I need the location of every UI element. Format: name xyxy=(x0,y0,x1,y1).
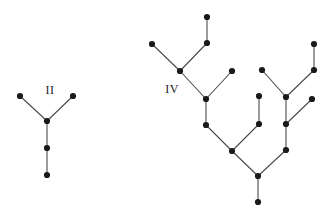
tree-node xyxy=(17,93,23,99)
tree-node xyxy=(283,147,289,153)
tree-node xyxy=(309,96,315,102)
figure-background xyxy=(0,0,332,215)
tree-node xyxy=(283,94,289,100)
tree-node xyxy=(311,67,317,73)
tree-node xyxy=(204,14,210,20)
tree-iv-label: IV xyxy=(165,82,178,96)
tree-node xyxy=(229,148,235,154)
tree-node xyxy=(44,145,50,151)
tree-diagram-figure: IIIV xyxy=(0,0,332,215)
tree-node xyxy=(44,172,50,178)
tree-node xyxy=(256,93,262,99)
tree-node xyxy=(203,96,209,102)
tree-node xyxy=(70,93,76,99)
tree-node xyxy=(149,41,155,47)
tree-node xyxy=(204,40,210,46)
tree-node xyxy=(229,68,235,74)
tree-node xyxy=(311,41,317,47)
tree-node xyxy=(259,67,265,73)
tree-node xyxy=(283,121,289,127)
tree-node xyxy=(177,68,183,74)
tree-node xyxy=(44,118,50,124)
tree-ii-label: II xyxy=(46,83,55,97)
tree-node xyxy=(255,173,261,179)
tree-node xyxy=(203,122,209,128)
tree-node xyxy=(256,121,262,127)
tree-node xyxy=(255,199,261,205)
tree-diagram-canvas: IIIV xyxy=(0,0,332,215)
